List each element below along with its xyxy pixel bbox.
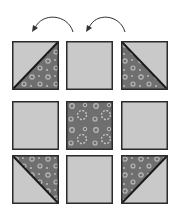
- block-center-print: [66, 101, 113, 150]
- block-bottom-right-hst: [121, 155, 168, 204]
- block-middle-left-light: [12, 101, 59, 150]
- block-bottom-left-hst: [12, 155, 59, 204]
- arrow-1-icon: [32, 17, 73, 32]
- block-bottom-middle-light: [66, 155, 113, 204]
- block-top-middle-light: [66, 41, 113, 90]
- block-top-left-hst: [12, 41, 59, 90]
- block-top-right-hst: [121, 41, 168, 90]
- rotation-arrows: [0, 0, 177, 40]
- arrow-2-icon: [86, 17, 125, 32]
- block-middle-right-light: [121, 101, 168, 150]
